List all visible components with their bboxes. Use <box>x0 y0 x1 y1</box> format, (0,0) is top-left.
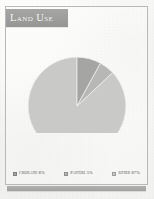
pie-chart-area <box>0 27 154 163</box>
legend-item-other: Other 87% <box>112 171 140 175</box>
chart-legend: Cropland 8% Pasture 5% Other 87% <box>9 168 144 179</box>
pie-chart <box>22 27 132 133</box>
legend-item-cropland: Cropland 8% <box>13 171 45 175</box>
title-banner: Land Use <box>6 9 68 27</box>
legend-swatch-other <box>112 172 116 176</box>
legend-swatch-pasture <box>64 172 68 176</box>
page-title: Land Use <box>10 13 53 24</box>
legend-label-pasture: Pasture 5% <box>70 171 93 175</box>
land-use-figure: Land Use Cropland 8% Pasture 5% Other 87… <box>0 0 154 199</box>
footer-bar-shadow <box>7 191 146 192</box>
legend-swatch-cropland <box>13 172 17 176</box>
legend-item-pasture: Pasture 5% <box>64 171 93 175</box>
legend-label-other: Other 87% <box>118 171 140 175</box>
legend-label-cropland: Cropland 8% <box>19 171 45 175</box>
